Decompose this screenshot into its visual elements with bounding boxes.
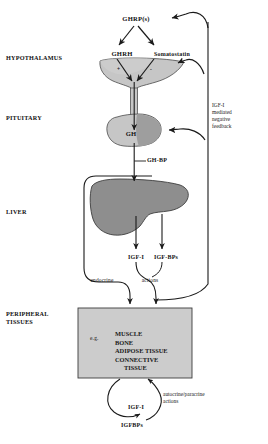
- arrow-igf-actions-to-tissue: [136, 262, 156, 304]
- node-label-ghrp: GHRP(s): [122, 15, 149, 22]
- tissue-box-eg: e.g.: [90, 335, 99, 341]
- node-label-igf-bps-liver: IGF-BPs: [154, 254, 178, 260]
- node-label-igfbps-bottom: IGFBPs: [121, 422, 143, 428]
- node-label-gh-bp: GH-BP: [147, 157, 167, 163]
- tissue-box-list: MUSCLE BONE ADIPOSE TISSUE CONNECTIVE TI…: [115, 330, 168, 373]
- arrow-ghrp-to-ghrh: [119, 26, 134, 45]
- arrow-feedback-to-somatostatin: [178, 60, 204, 74]
- feedback-line-4: feedback: [212, 123, 232, 130]
- arrow-feedback-to-pituitary: [169, 129, 205, 140]
- diagram-vector-layer: [0, 0, 268, 444]
- hypothalamus-organ: [100, 58, 184, 110]
- arrow-autocrine-left: [108, 379, 140, 417]
- tissue-item-connective: CONNECTIVE: [115, 356, 168, 365]
- feedback-line-2: mediated: [212, 109, 232, 116]
- plus-sign: +: [117, 66, 120, 72]
- minus-sign: -: [150, 66, 152, 72]
- label-actions: actions: [142, 277, 159, 283]
- side-label-peripheral-tissues-2: TISSUES: [6, 318, 33, 326]
- liver-organ: [90, 179, 188, 235]
- side-label-hypothalamus: HYPOTHALAMUS: [6, 54, 62, 62]
- feedback-line-3: negative: [212, 116, 232, 123]
- autocrine-label-block: autocrine/paracrine actions: [163, 391, 205, 405]
- node-label-somatostatin: Somatostatin: [154, 51, 190, 57]
- node-label-igf-i-liver: IGF-I: [128, 254, 144, 260]
- autocrine-line-1: autocrine/paracrine: [163, 391, 205, 398]
- arrow-paracrine-right: [146, 379, 161, 420]
- side-label-liver: LIVER: [6, 208, 27, 216]
- node-label-ghrh: GHRH: [112, 50, 133, 57]
- node-label-gh: GH: [126, 130, 137, 137]
- tissue-item-muscle: MUSCLE: [115, 330, 168, 339]
- arrow-feedback-to-hypothalamus: [172, 13, 208, 28]
- side-label-pituitary: PITUITARY: [6, 114, 42, 122]
- label-endocrine: endocrine: [90, 277, 113, 283]
- tissue-item-tissue: TISSUE: [115, 364, 168, 373]
- feedback-line-1: IGF-I: [212, 102, 232, 109]
- tissue-item-adipose-tissue: ADIPOSE TISSUE: [115, 347, 168, 356]
- diagram-canvas: HYPOTHALAMUS PITUITARY LIVER PERIPHERAL …: [0, 0, 268, 444]
- side-label-peripheral-tissues-1: PERIPHERAL: [6, 310, 49, 318]
- arrow-ghrp-to-somatostatin: [138, 26, 154, 45]
- tissue-item-bone: BONE: [115, 339, 168, 348]
- autocrine-line-2: actions: [163, 398, 205, 405]
- node-label-igf-i-bottom: IGF-I: [128, 404, 144, 410]
- feedback-label-block: IGF-I mediated negative feedback: [212, 102, 232, 130]
- connector-igfbps: [152, 262, 162, 277]
